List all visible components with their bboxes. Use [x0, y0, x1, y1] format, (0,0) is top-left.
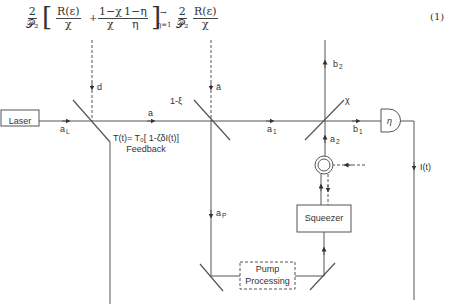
label-d: d [97, 82, 102, 92]
label-a2-sub: 2 [336, 138, 340, 145]
label-abar: ā [216, 82, 221, 92]
pump-beamsplitter [194, 100, 230, 140]
circulator-inner [318, 159, 330, 171]
squeezer-label: Squeezer [305, 213, 344, 223]
label-b2-sub: 2 [339, 63, 343, 70]
laser-label: Laser [9, 116, 32, 126]
label-aP: a [216, 208, 221, 218]
label-a: a [148, 108, 153, 118]
feedback-label: Feedback [126, 144, 166, 154]
pump-label: Pump [256, 264, 280, 274]
label-b1-sub: 1 [359, 128, 363, 135]
label-a2: a [330, 134, 335, 144]
label-chi: χ [345, 95, 350, 105]
label-aL: a [60, 124, 65, 134]
processing-label: Processing [245, 276, 290, 286]
photocurrent-line [400, 121, 414, 300]
feedback-formula: T(t)= T₀[ 1-ζδI(t)] [113, 133, 179, 143]
label-aP-sub: P [222, 212, 226, 219]
label-a1: a [267, 124, 272, 134]
label-1-minus-xi: 1-ξ [170, 96, 182, 106]
label-b2: b [333, 59, 338, 69]
optical-setup-diagram: Laser Squeezer Pump Processing η T(t)= T… [0, 0, 450, 304]
label-aL-sub: L [66, 128, 70, 135]
label-a1-sub: 1 [273, 128, 277, 135]
detector-label: η [387, 116, 392, 126]
label-b1: b [353, 124, 358, 134]
label-It: I(t) [420, 162, 431, 172]
